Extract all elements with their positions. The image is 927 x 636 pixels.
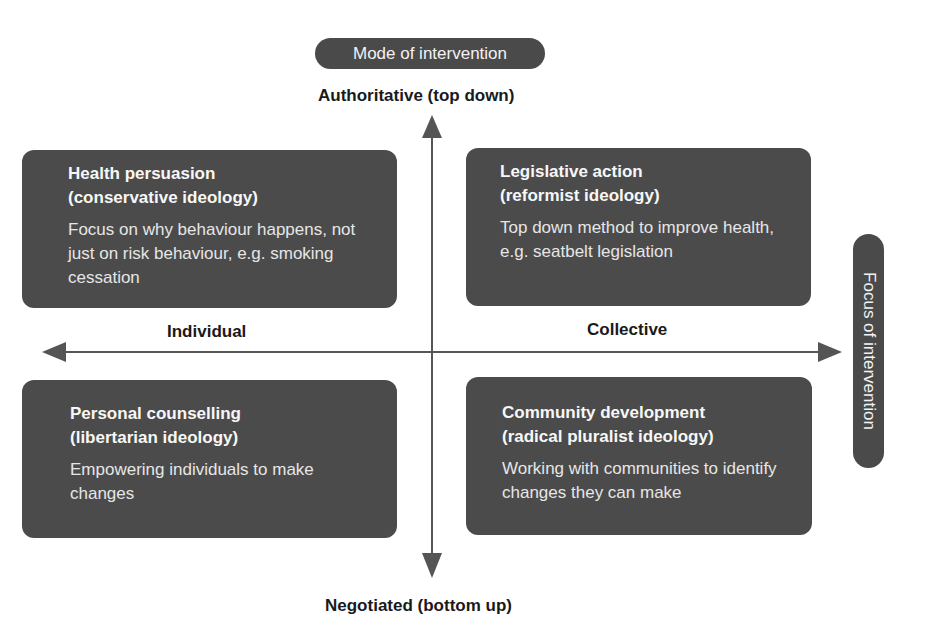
collective-label: Collective bbox=[587, 320, 667, 340]
quadrant-description: Focus on why behaviour happens, not just… bbox=[68, 218, 375, 290]
quadrant-title: Personal counselling bbox=[70, 402, 375, 426]
quadrant-subtitle: (reformist ideology) bbox=[500, 184, 789, 208]
quadrant-title: Legislative action bbox=[500, 160, 789, 184]
quadrant-title: Community development bbox=[502, 401, 790, 425]
arrow-down-icon bbox=[422, 553, 442, 578]
quadrant-personal-counselling: Personal counselling (libertarian ideolo… bbox=[22, 380, 397, 538]
mode-of-intervention-pill: Mode of intervention bbox=[315, 38, 545, 69]
quadrant-community-development: Community development (radical pluralist… bbox=[466, 377, 812, 535]
quadrant-legislative-action: Legislative action (reformist ideology) … bbox=[466, 148, 811, 306]
quadrant-description: Empowering individuals to make changes bbox=[70, 458, 375, 506]
focus-of-intervention-pill: Focus of intervention bbox=[853, 234, 884, 468]
quadrant-title: Health persuasion bbox=[68, 162, 375, 186]
quadrant-description: Top down method to improve health, e.g. … bbox=[500, 216, 789, 264]
quadrant-health-persuasion: Health persuasion (conservative ideology… bbox=[22, 150, 397, 308]
arrow-right-icon bbox=[818, 342, 842, 362]
authoritative-label: Authoritative (top down) bbox=[318, 86, 514, 106]
arrow-left-icon bbox=[42, 342, 66, 362]
arrow-up-icon bbox=[422, 115, 442, 138]
quadrant-description: Working with communities to identify cha… bbox=[502, 457, 790, 505]
quadrant-subtitle: (conservative ideology) bbox=[68, 186, 375, 210]
individual-label: Individual bbox=[167, 322, 246, 342]
quadrant-subtitle: (radical pluralist ideology) bbox=[502, 425, 790, 449]
quadrant-subtitle: (libertarian ideology) bbox=[70, 426, 375, 450]
mode-of-intervention-label: Mode of intervention bbox=[353, 44, 507, 64]
focus-of-intervention-label: Focus of intervention bbox=[859, 272, 879, 430]
negotiated-label: Negotiated (bottom up) bbox=[325, 596, 512, 616]
